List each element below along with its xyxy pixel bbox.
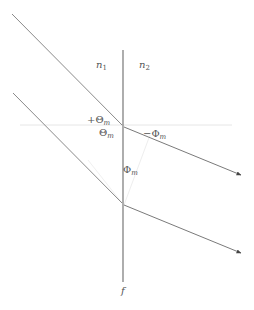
label-f: f <box>120 285 127 296</box>
label-phi-m: Φm <box>123 164 138 177</box>
label-n2: n2 <box>139 59 150 72</box>
label-theta-m: Θm <box>99 127 114 140</box>
refracted-ray-lower <box>124 205 241 253</box>
refracted-ray-upper <box>124 127 241 175</box>
refraction-diagram: n1 n2 +Θm Θm −Φm Φm f <box>0 0 254 310</box>
incident-ray-lower <box>13 93 122 203</box>
label-n1: n1 <box>96 59 107 72</box>
label-minus-phi-m: −Φm <box>143 128 167 141</box>
construction-line <box>88 160 122 203</box>
